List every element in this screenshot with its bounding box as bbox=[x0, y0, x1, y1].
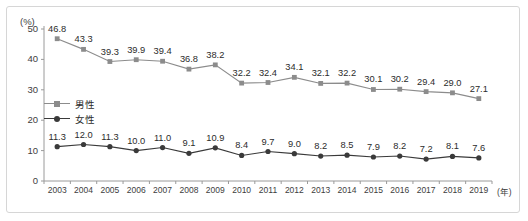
data-point-label: 32.2 bbox=[338, 68, 356, 78]
data-point-marker bbox=[107, 144, 112, 149]
x-axis-tick-label: 2010 bbox=[232, 185, 251, 195]
data-point-label: 39.9 bbox=[127, 45, 145, 55]
data-point-marker bbox=[81, 142, 86, 147]
data-point-label: 46.8 bbox=[48, 24, 66, 34]
data-point-marker bbox=[292, 75, 297, 80]
chart-legend: 男性 女性 bbox=[44, 96, 95, 126]
data-point-marker bbox=[318, 153, 323, 158]
data-point-label: 10.0 bbox=[127, 136, 145, 146]
x-axis-tick-label: 2012 bbox=[285, 185, 304, 195]
data-point-marker bbox=[81, 47, 86, 52]
legend-item-male[interactable]: 男性 bbox=[44, 96, 95, 111]
data-point-marker bbox=[266, 80, 271, 85]
data-point-marker bbox=[239, 81, 244, 86]
data-point-label: 7.9 bbox=[367, 142, 380, 152]
data-point-label: 39.4 bbox=[154, 46, 172, 56]
data-point-marker bbox=[134, 57, 139, 62]
x-axis-tick-label: 2006 bbox=[127, 185, 146, 195]
x-axis-tick-label: 2005 bbox=[100, 185, 119, 195]
data-point-marker bbox=[187, 67, 192, 72]
data-point-marker bbox=[134, 148, 139, 153]
data-point-marker bbox=[344, 153, 349, 158]
data-point-marker bbox=[397, 153, 402, 158]
data-point-marker bbox=[371, 154, 376, 159]
legend-swatch-male bbox=[44, 98, 70, 109]
data-point-label: 29.4 bbox=[417, 77, 435, 87]
y-axis-tick-label: 40 bbox=[18, 53, 38, 64]
data-point-marker bbox=[213, 145, 218, 150]
x-axis-tick-label: 2015 bbox=[364, 185, 383, 195]
data-point-label: 11.3 bbox=[101, 132, 118, 142]
x-axis-tick-label: 2019 bbox=[469, 185, 488, 195]
data-point-label: 11.0 bbox=[154, 133, 171, 143]
data-point-label: 27.1 bbox=[470, 84, 488, 94]
data-point-marker bbox=[160, 145, 165, 150]
data-point-marker bbox=[371, 87, 376, 92]
data-point-label: 9.1 bbox=[182, 138, 195, 148]
data-point-label: 8.2 bbox=[393, 141, 406, 151]
chart-container: (%) (年) 01020304050 20032004200520062007… bbox=[0, 0, 528, 221]
data-point-label: 7.2 bbox=[420, 144, 433, 154]
data-point-marker bbox=[213, 62, 218, 67]
data-point-marker bbox=[265, 149, 270, 154]
data-point-marker bbox=[424, 89, 429, 94]
y-axis-tick-label: 20 bbox=[18, 114, 38, 125]
data-point-label: 43.3 bbox=[74, 34, 92, 44]
x-axis-tick-label: 2004 bbox=[74, 185, 93, 195]
data-point-marker bbox=[186, 151, 191, 156]
data-point-marker bbox=[318, 81, 323, 86]
data-point-label: 39.3 bbox=[101, 47, 119, 57]
data-point-marker bbox=[450, 154, 455, 159]
data-point-marker bbox=[107, 59, 112, 64]
data-point-label: 10.9 bbox=[206, 133, 224, 143]
y-axis-tick-label: 0 bbox=[18, 175, 38, 186]
data-point-label: 29.0 bbox=[443, 78, 461, 88]
data-point-marker bbox=[476, 155, 481, 160]
square-marker-icon bbox=[54, 101, 60, 107]
legend-label-female: 女性 bbox=[75, 112, 95, 126]
data-point-marker bbox=[476, 96, 481, 101]
data-point-label: 8.2 bbox=[314, 141, 327, 151]
data-point-label: 9.0 bbox=[288, 139, 301, 149]
y-axis-tick-label: 30 bbox=[18, 84, 38, 95]
data-point-marker bbox=[55, 36, 60, 41]
legend-item-female[interactable]: 女性 bbox=[44, 111, 95, 126]
data-point-label: 36.8 bbox=[180, 54, 198, 64]
data-point-marker bbox=[345, 81, 350, 86]
data-point-label: 9.7 bbox=[262, 137, 275, 147]
x-axis-tick-label: 2014 bbox=[338, 185, 357, 195]
data-point-marker bbox=[160, 59, 165, 64]
x-axis-tick-label: 2011 bbox=[259, 185, 277, 195]
data-point-marker bbox=[424, 157, 429, 162]
data-point-label: 8.1 bbox=[446, 141, 459, 151]
legend-label-male: 男性 bbox=[75, 97, 95, 111]
data-point-marker bbox=[397, 87, 402, 92]
data-point-label: 8.4 bbox=[235, 140, 248, 150]
data-point-marker bbox=[292, 151, 297, 156]
data-point-label: 11.3 bbox=[48, 132, 65, 142]
data-point-label: 32.1 bbox=[312, 68, 330, 78]
x-axis-tick-label: 2007 bbox=[153, 185, 172, 195]
x-axis-tick-label: 2008 bbox=[179, 185, 198, 195]
legend-swatch-female bbox=[44, 113, 70, 124]
data-point-marker bbox=[239, 153, 244, 158]
data-point-label: 38.2 bbox=[206, 50, 224, 60]
data-point-label: 30.1 bbox=[364, 74, 382, 84]
data-point-marker bbox=[450, 90, 455, 95]
x-axis-tick-label: 2016 bbox=[390, 185, 409, 195]
x-axis-unit-label: (年) bbox=[497, 185, 512, 197]
x-axis-tick-label: 2018 bbox=[443, 185, 462, 195]
y-axis-tick-label: 50 bbox=[18, 23, 38, 34]
data-point-label: 7.6 bbox=[472, 143, 485, 153]
y-axis-tick-label: 10 bbox=[18, 145, 38, 156]
data-point-label: 32.4 bbox=[259, 68, 277, 78]
data-point-label: 8.5 bbox=[341, 140, 354, 150]
data-point-label: 32.2 bbox=[233, 68, 251, 78]
x-axis-tick-label: 2009 bbox=[206, 185, 225, 195]
data-point-label: 12.0 bbox=[74, 130, 92, 140]
x-axis-tick-label: 2013 bbox=[311, 185, 330, 195]
data-point-label: 30.2 bbox=[391, 74, 409, 84]
circle-marker-icon bbox=[54, 116, 60, 122]
x-axis-tick-label: 2003 bbox=[48, 185, 67, 195]
x-axis-tick-label: 2017 bbox=[417, 185, 436, 195]
